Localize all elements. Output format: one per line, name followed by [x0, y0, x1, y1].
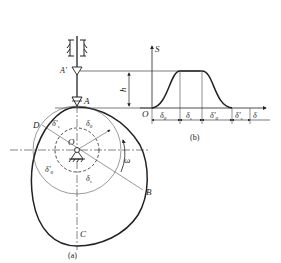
label-omega: ω — [124, 155, 130, 165]
diagram-canvas: h A' A D B C O ω — [0, 0, 281, 263]
label-D: D — [32, 120, 40, 130]
radius-line — [77, 130, 110, 150]
label-C: C — [80, 229, 87, 239]
label-A: A — [83, 96, 90, 106]
interval-delta-0: δ0 — [160, 111, 167, 121]
interval-delta-s-prime: δ's — [235, 111, 242, 121]
origin-label: O — [142, 109, 149, 119]
caption-b: (b) — [190, 133, 200, 142]
h-label: h — [118, 87, 128, 92]
label-delta-s-prime: δ's — [52, 119, 59, 129]
delta-axis-label: δ — [253, 111, 257, 120]
interval-delta-0-prime: δ'0 — [210, 111, 218, 121]
figure-b-displacement: S O δ0 δs δ'0 δ's δ (b) — [140, 44, 270, 142]
caption-a: (a) — [68, 251, 77, 260]
s-axis-label: S — [155, 44, 160, 54]
figure-a-cam: h A' A D B C O ω — [10, 36, 200, 260]
displacement-curve — [152, 71, 232, 108]
pivot-support — [69, 148, 85, 163]
label-O: O — [68, 137, 75, 147]
label-A-prime: A' — [59, 66, 67, 75]
label-delta-0: δ0 — [86, 119, 93, 129]
label-B: B — [146, 187, 152, 197]
label-delta-s: δs — [86, 174, 92, 184]
label-delta-0-prime: δ'0 — [45, 165, 53, 175]
follower-tip — [72, 97, 82, 106]
interval-delta-s: δs — [186, 111, 192, 121]
cam-mechanism-diagram: h A' A D B C O ω — [0, 0, 281, 263]
